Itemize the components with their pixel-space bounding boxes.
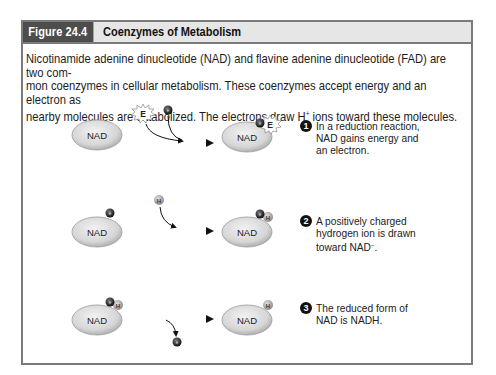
molecule-label: NAD [87,130,107,141]
step-text: The reduced form of NAD is NADH. [316,303,426,327]
svg-text:E: E [140,109,146,119]
svg-text:H: H [266,215,270,221]
hydrogen-path-arrow-icon [160,207,175,227]
row-2: NAD e H NAD H e [72,195,273,247]
energy-path-arrow-icon [146,124,182,141]
step-3-caption: 3 The reduced form of NAD is NADH. [300,303,426,327]
molecule-label: NAD [237,227,257,238]
electron-icon: e [256,210,265,219]
row-1: NAD E e NAD E e [72,104,281,152]
hydrogen-ion-icon: H [263,212,273,222]
hydrogen-ion-icon: H [263,300,273,310]
electron-icon: e [106,298,115,307]
electron-path-arrow-icon [168,116,182,140]
step-text: In a reduction reaction, NAD gains energ… [316,121,426,156]
electron-icon: e [256,119,265,128]
svg-text:H: H [157,198,161,204]
svg-text:H: H [266,303,270,309]
step-number-badge: 3 [300,302,312,314]
molecule-label: NAD [237,132,257,143]
row-3: NAD H e e NAD H [72,298,273,347]
step-2-caption: 2 A positively charged hydrogen ion is d… [300,216,426,253]
electron-icon: e [173,338,182,347]
hydrogen-ion-icon: H [113,300,123,310]
step-number-badge: 1 [300,120,312,132]
step-number-badge: 2 [300,215,312,227]
svg-text:H: H [116,303,120,309]
step-1-caption: 1 In a reduction reaction, NAD gains ene… [300,121,426,156]
molecule-label: NAD [87,315,107,326]
svg-text:E: E [267,120,273,130]
energy-starburst-icon: E [131,104,155,123]
hydrogen-ion-icon: H [154,195,164,205]
step-text: A positively charged hydrogen ion is dra… [316,216,426,253]
molecule-label: NAD [87,227,107,238]
molecule-label: NAD [237,315,257,326]
electron-icon: e [164,106,173,115]
electron-release-arrow-icon [166,320,176,335]
electron-icon: e [106,209,115,218]
